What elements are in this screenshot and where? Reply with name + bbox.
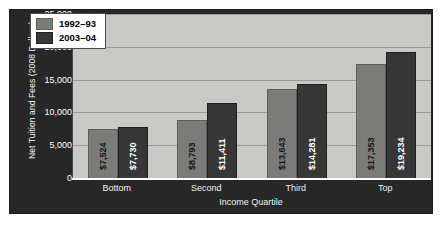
bar-value-label: $13,643 xyxy=(277,137,286,170)
chart-figure: Net Tuition and Fees (2008 Dollars) 05,0… xyxy=(0,0,443,228)
chart-panel: Net Tuition and Fees (2008 Dollars) 05,0… xyxy=(10,10,432,213)
bar-bottom-1992-93[interactable]: $7,524 xyxy=(88,129,118,178)
bar-value-label: $14,281 xyxy=(307,137,316,170)
bar-value-label: $8,793 xyxy=(188,142,197,170)
bar-second-2003-04[interactable]: $11,411 xyxy=(207,103,237,178)
gridline xyxy=(73,47,431,48)
x-axis-baseline xyxy=(72,178,431,180)
y-tick-label: 0 xyxy=(26,174,72,183)
bar-value-label: $7,730 xyxy=(128,142,137,170)
legend-label: 2003–04 xyxy=(59,33,96,43)
bar-second-1992-93[interactable]: $8,793 xyxy=(177,120,207,178)
x-axis-title: Income Quartile xyxy=(72,198,430,207)
bar-top-2003-04[interactable]: $19,234 xyxy=(386,52,416,178)
x-tick-label-second: Second xyxy=(191,184,222,193)
bar-bottom-2003-04[interactable]: $7,730 xyxy=(118,127,148,178)
x-tick-label-top: Top xyxy=(378,184,393,193)
x-tick-label-bottom: Bottom xyxy=(102,184,131,193)
bar-third-2003-04[interactable]: $14,281 xyxy=(297,84,327,178)
y-tick-label: 10,000 xyxy=(26,108,72,117)
legend-swatch-icon xyxy=(36,32,53,44)
x-tick-label-third: Third xyxy=(285,184,306,193)
legend-swatch-icon xyxy=(36,18,53,30)
legend: 1992–932003–04 xyxy=(30,13,106,49)
bar-value-label: $7,524 xyxy=(98,142,107,170)
bar-value-label: $17,353 xyxy=(367,137,376,170)
legend-item-1992-93[interactable]: 1992–93 xyxy=(36,17,96,31)
legend-item-2003-04[interactable]: 2003–04 xyxy=(36,31,96,45)
y-tick-label: 5,000 xyxy=(26,141,72,150)
gridline xyxy=(73,14,431,15)
legend-label: 1992–93 xyxy=(59,19,96,29)
bar-third-1992-93[interactable]: $13,643 xyxy=(267,89,297,178)
bar-top-1992-93[interactable]: $17,353 xyxy=(356,64,386,178)
bar-value-label: $19,234 xyxy=(397,137,406,170)
y-tick-label: 15,000 xyxy=(26,75,72,84)
plot-area: $7,524$7,730$8,793$11,411$13,643$14,281$… xyxy=(72,14,431,178)
bar-value-label: $11,411 xyxy=(218,138,227,170)
